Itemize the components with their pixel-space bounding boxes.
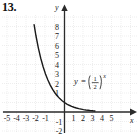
equation-annotation: y = 1 2 x [73,73,106,91]
y-tick-label: 2 [55,80,59,89]
graph-plot: y x 8 7 6 5 4 3 2 1 -1 -2 -5 -4 -3 -2 -1… [0,0,139,136]
x-tick-label: -2 [32,114,39,123]
y-tick-label: 6 [55,42,59,51]
x-tick-label: -5 [4,114,11,123]
y-tick-label: -2 [56,127,63,136]
equation-right-paren [100,76,101,90]
x-tick-label: -1 [42,114,49,123]
equation-denominator: 2 [94,83,97,90]
equation-exponent: x [102,73,106,79]
y-axis-label: y [54,3,59,12]
x-tick-label: 2 [81,114,85,123]
y-axis [61,5,67,134]
figure-container: 13. [0,0,139,136]
equation-equals: = [81,76,87,86]
y-tick-label: 5 [55,51,59,60]
equation-left-paren [89,76,90,90]
y-tick-label: 3 [55,70,59,79]
y-tick-label: 4 [55,61,59,70]
x-tick-label: -3 [23,114,30,123]
y-tick-label: 7 [55,32,59,41]
equation-lhs: y [73,76,78,86]
x-tick-label: 1 [72,114,76,123]
x-tick-label: 5 [110,114,114,123]
x-axis-label: x [129,116,134,125]
x-tick-label: -4 [13,114,20,123]
x-tick-label: 4 [100,114,104,123]
equation-numerator: 1 [94,75,97,82]
y-tick-labels: 8 7 6 5 4 3 2 1 -1 -2 [55,23,62,137]
y-tick-label: 8 [55,23,59,32]
x-tick-label: 3 [91,114,95,123]
y-tick-label: -1 [56,118,63,127]
